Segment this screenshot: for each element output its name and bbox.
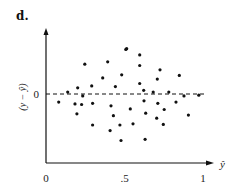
data-point (57, 101, 60, 104)
axes (44, 28, 215, 166)
data-point (129, 107, 132, 110)
data-point (106, 60, 109, 63)
data-point (167, 91, 170, 94)
data-point (76, 86, 79, 89)
x-tick-label: 1 (200, 172, 206, 184)
data-point (197, 94, 200, 97)
axis-labels: ŷ(y − ŷ) (17, 83, 225, 170)
data-point (138, 53, 141, 56)
data-point (178, 74, 181, 77)
data-point (187, 114, 190, 117)
x-tick-label: .5 (120, 172, 129, 184)
data-point (138, 82, 141, 85)
data-point (83, 63, 86, 66)
data-point (158, 68, 161, 71)
data-point (138, 64, 141, 67)
data-point (109, 104, 112, 107)
data-point (144, 112, 147, 115)
x-tick-label: 0 (43, 172, 49, 184)
data-point (91, 123, 94, 126)
data-point (163, 108, 166, 111)
data-point (144, 138, 147, 141)
data-point (91, 102, 94, 105)
data-point (101, 76, 104, 79)
x-axis-arrow-icon (206, 161, 214, 166)
data-point (73, 102, 76, 105)
data-point (142, 99, 145, 102)
data-point (90, 84, 93, 87)
data-point (156, 78, 159, 81)
data-points (57, 47, 200, 142)
data-point (118, 123, 121, 126)
data-point (114, 85, 117, 88)
data-point (112, 114, 115, 117)
data-point (125, 47, 128, 50)
data-point (109, 129, 112, 132)
data-point (155, 117, 158, 120)
y-axis-label: (y − ŷ) (17, 83, 29, 111)
data-point (75, 112, 78, 115)
x-axis-label: ŷ (219, 158, 225, 170)
data-point (81, 94, 84, 97)
y-tick-label: 0 (34, 88, 40, 100)
data-point (142, 89, 145, 92)
data-point (162, 123, 165, 126)
scatter-plot: 0.510 ŷ(y − ŷ) (0, 0, 244, 194)
y-axis-arrow-icon (44, 28, 49, 35)
data-point (174, 101, 177, 104)
data-point (119, 139, 122, 142)
data-point (131, 122, 134, 125)
data-point (120, 73, 123, 76)
data-point (182, 94, 185, 97)
data-point (80, 103, 83, 106)
data-point (156, 102, 159, 105)
data-point (152, 91, 155, 94)
data-point (66, 91, 69, 94)
